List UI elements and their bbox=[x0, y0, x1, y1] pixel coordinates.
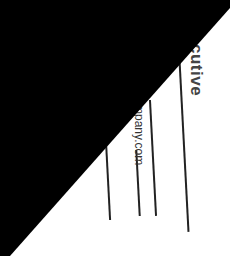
photo-scene: cutive mpany.com bbox=[0, 0, 230, 256]
